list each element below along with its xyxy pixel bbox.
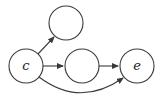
node-e: e: [120, 49, 154, 83]
edge-c-to-top: [38, 37, 54, 54]
node-c-label: c: [22, 58, 30, 73]
node-e-label: e: [133, 58, 141, 73]
graph-diagram: c e: [0, 0, 162, 97]
node-c: c: [9, 49, 43, 83]
node-top: [49, 6, 83, 40]
node-mid: [65, 49, 99, 83]
